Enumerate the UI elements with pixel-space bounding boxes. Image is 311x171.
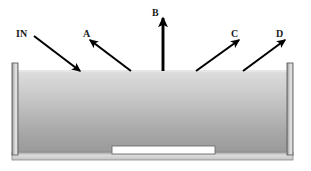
light-ray-tank-diagram: IN A B C D	[0, 0, 311, 171]
ray-label-b: B	[152, 7, 159, 18]
tank-left-wall	[12, 63, 18, 155]
ray-c-arrow	[196, 40, 239, 71]
liquid-body	[17, 70, 288, 152]
submerged-white-block	[112, 146, 215, 154]
ray-label-c: C	[231, 28, 238, 39]
ray-a-arrow	[90, 40, 131, 71]
tank-right-wall	[287, 63, 293, 155]
ray-in-arrow	[34, 36, 80, 71]
diagram-canvas: IN A B C D	[0, 0, 311, 171]
ray-group	[34, 18, 285, 71]
ray-d-arrow	[243, 40, 285, 71]
liquid-tank	[12, 63, 293, 160]
ray-label-d: D	[276, 28, 283, 39]
liquid-surface-line	[17, 70, 288, 72]
ray-label-in: IN	[16, 28, 28, 39]
ray-label-group: IN A B C D	[16, 7, 283, 39]
ray-label-a: A	[83, 28, 91, 39]
